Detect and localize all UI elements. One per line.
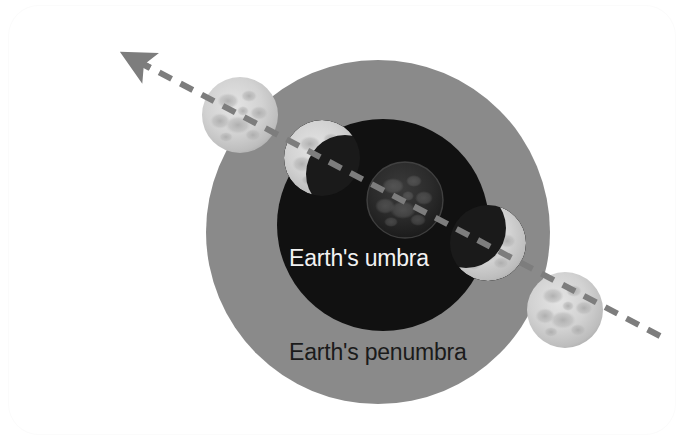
eclipse-diagram-canvas xyxy=(0,0,690,441)
moon-phase-1-full xyxy=(202,77,278,153)
lunar-eclipse-diagram-figure: Earth's umbra Earth's penumbra xyxy=(0,0,690,441)
earths-penumbra-label: Earth's penumbra xyxy=(289,339,467,366)
earths-umbra-label: Earth's umbra xyxy=(289,245,429,272)
motion-direction-arrow-icon xyxy=(126,55,150,68)
moon-phase-2-partial-entering xyxy=(284,120,360,196)
